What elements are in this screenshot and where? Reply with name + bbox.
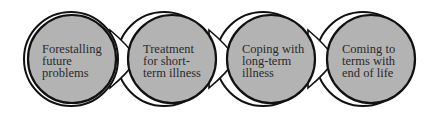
step-3-line-3: illness xyxy=(242,67,304,79)
step-4-line-3: end of life xyxy=(342,67,395,79)
step-2-label: Treatment for short- term illness xyxy=(143,43,201,79)
step-1-label: Forestalling future problems xyxy=(42,43,102,79)
process-diagram: Forestalling future problems Treatment f… xyxy=(0,0,437,113)
step-1-line-3: problems xyxy=(42,67,102,79)
step-4-label: Coming to terms with end of life xyxy=(342,43,395,79)
step-2-line-3: term illness xyxy=(143,67,201,79)
step-3-label: Coping with long-term illness xyxy=(242,43,304,79)
